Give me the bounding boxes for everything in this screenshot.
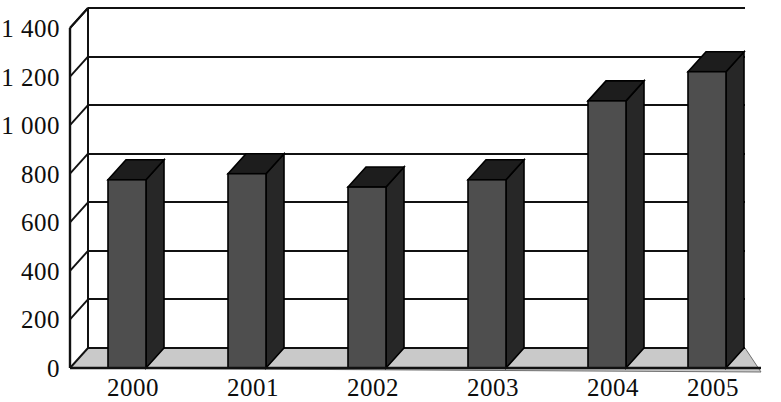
y-tick-label: 600 — [21, 209, 60, 236]
bar-front-face — [588, 101, 626, 368]
bar-2005 — [688, 52, 744, 368]
depth-connector-600 — [70, 202, 88, 222]
bar-side-face — [626, 81, 644, 368]
bar-side-face — [146, 160, 164, 368]
bar-front-face — [228, 174, 266, 368]
bar-side-face — [266, 154, 284, 368]
y-tick-label: 1 000 — [1, 112, 60, 139]
chart-canvas: 02004006008001 0001 2001 400 20002001200… — [0, 0, 781, 402]
depth-connector-800 — [70, 154, 88, 174]
bar-2003 — [468, 160, 524, 368]
x-axis-category-labels: 200020012002200320042005 — [107, 374, 739, 401]
depth-connector-400 — [70, 251, 88, 271]
bar-2001 — [228, 154, 284, 368]
y-tick-label: 400 — [21, 258, 60, 285]
y-tick-label: 800 — [21, 161, 60, 188]
bar-front-face — [348, 187, 386, 368]
x-category-label: 2001 — [227, 374, 279, 401]
x-category-label: 2000 — [107, 374, 159, 401]
x-category-label: 2005 — [687, 374, 739, 401]
depth-connector-200 — [70, 299, 88, 319]
y-tick-label: 0 — [47, 355, 60, 382]
x-category-label: 2002 — [347, 374, 399, 401]
bar-front-face — [108, 180, 146, 368]
depth-connector-1000 — [70, 105, 88, 125]
y-tick-label: 1 200 — [1, 64, 60, 91]
y-tick-label: 1 400 — [1, 15, 60, 42]
back-wall-face — [88, 8, 745, 348]
x-category-label: 2003 — [467, 374, 519, 401]
bar-side-face — [726, 52, 744, 368]
y-axis-tick-labels: 02004006008001 0001 2001 400 — [1, 15, 60, 382]
bar-2002 — [348, 167, 404, 368]
bar-front-face — [468, 180, 506, 368]
depth-connector-1200 — [70, 57, 88, 77]
bar-side-face — [386, 167, 404, 368]
x-category-label: 2004 — [587, 374, 639, 401]
bar-2000 — [108, 160, 164, 368]
bar-2004 — [588, 81, 644, 368]
bar-front-face — [688, 72, 726, 368]
depth-connector-1400 — [70, 8, 88, 28]
y-tick-label: 200 — [21, 306, 60, 333]
bar-side-face — [506, 160, 524, 368]
bar-chart-figure: 02004006008001 0001 2001 400 20002001200… — [0, 0, 781, 402]
